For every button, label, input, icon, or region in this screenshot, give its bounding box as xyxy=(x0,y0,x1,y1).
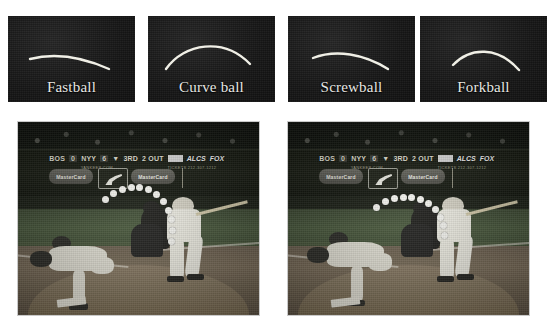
ball-trajectory-dot xyxy=(441,232,448,239)
ball-trajectory-dot xyxy=(437,214,444,221)
pitch-panel-curve-ball: Curve ball xyxy=(148,16,275,102)
ball-trajectory-dot xyxy=(425,200,432,207)
forkball-trajectory-path xyxy=(453,52,519,70)
ball-trajectory-dot xyxy=(145,186,152,193)
ball-trajectory-dot xyxy=(169,227,176,234)
ball-trajectory-dot xyxy=(391,195,398,202)
pitch-panel-label: Curve ball xyxy=(148,79,275,96)
ball-trajectory-dot xyxy=(408,194,415,201)
ball-trajectory-dot xyxy=(168,238,175,245)
ball-trajectory-dot xyxy=(440,222,447,229)
ball-trajectory-dot xyxy=(165,207,172,214)
broadcast-frame-left: BOS 0 NYY 6 ▼ 3RD 2 OUT ALCS FOX YANKEES… xyxy=(17,121,260,316)
fastball-trajectory-path xyxy=(30,56,109,69)
ball-trajectory-dot xyxy=(110,190,117,197)
ball-trajectory-dot xyxy=(102,196,109,203)
ball-trajectory-dot xyxy=(373,204,380,211)
curve-ball-trajectory-path xyxy=(166,46,250,69)
ball-trajectory-dot xyxy=(168,216,175,223)
ball-trajectory-overlay xyxy=(288,122,529,315)
ball-trajectory-dot xyxy=(136,184,143,191)
ball-trajectory-dot xyxy=(382,198,389,205)
broadcast-frame-right: BOS 0 NYY 6 ▼ 3RD 2 OUT ALCS FOX YANKEES… xyxy=(287,121,530,316)
screwball-trajectory-path xyxy=(313,54,388,69)
pitch-panel-fastball: Fastball xyxy=(8,16,135,102)
pitch-panel-label: Forkball xyxy=(420,79,547,96)
ball-trajectory-overlay xyxy=(18,122,259,315)
pitch-panel-label: Screwball xyxy=(288,79,415,96)
ball-trajectory-dot xyxy=(153,191,160,198)
pitch-panel-screwball: Screwball xyxy=(288,16,415,102)
ball-trajectory-dot xyxy=(432,206,439,213)
pitch-panel-forkball: Forkball xyxy=(420,16,547,102)
ball-trajectory-dot xyxy=(417,196,424,203)
pitch-type-diagram-row: Fastball Curve ball Screwball Forkball xyxy=(0,0,550,112)
ball-trajectory-dot xyxy=(160,198,167,205)
ball-trajectory-dot xyxy=(400,194,407,201)
ball-trajectory-dot xyxy=(128,184,135,191)
ball-trajectory-dot xyxy=(119,186,126,193)
broadcast-photo-row: BOS 0 NYY 6 ▼ 3RD 2 OUT ALCS FOX YANKEES… xyxy=(0,112,550,325)
pitch-panel-label: Fastball xyxy=(8,79,135,96)
